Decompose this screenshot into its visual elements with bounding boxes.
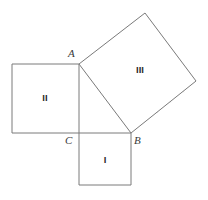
vertex-label-c: C xyxy=(65,134,73,146)
square-two-label: II xyxy=(42,92,47,103)
geometry-canvas: II I xyxy=(0,0,208,200)
vertex-label-a: A xyxy=(67,47,75,59)
square-one-group: I xyxy=(79,133,131,185)
square-two-group: II xyxy=(12,64,79,133)
square-three-label: III xyxy=(136,64,144,75)
square-one-label: I xyxy=(104,154,107,165)
pythagorean-diagram: II I xyxy=(0,0,208,200)
square-three-group: III xyxy=(79,13,196,133)
vertex-label-b: B xyxy=(134,134,141,146)
